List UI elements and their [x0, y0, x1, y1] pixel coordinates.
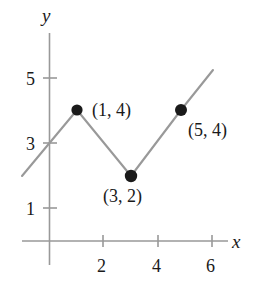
graph-figure: y x 5 3 1 2 4 6 (1, 4) (3, 2) (5, 4)	[0, 0, 254, 289]
x-tick-label-2: 2	[97, 257, 106, 275]
point-label-3-2: (3, 2)	[103, 187, 142, 205]
data-point-3-2	[125, 170, 137, 182]
x-tick-label-4: 4	[152, 257, 161, 275]
y-tick-label-3: 3	[26, 135, 35, 153]
y-axis-label: y	[42, 6, 50, 25]
data-point-1-4	[71, 104, 82, 115]
x-axis-label: x	[232, 232, 240, 251]
point-label-1-4: (1, 4)	[92, 101, 131, 119]
data-point-5-4	[175, 104, 187, 116]
plot-canvas	[0, 0, 254, 289]
x-tick-label-6: 6	[206, 257, 215, 275]
v-shape-line	[22, 70, 213, 176]
y-tick-label-1: 1	[26, 200, 35, 218]
point-label-5-4: (5, 4)	[188, 121, 227, 139]
y-tick-label-5: 5	[26, 70, 35, 88]
